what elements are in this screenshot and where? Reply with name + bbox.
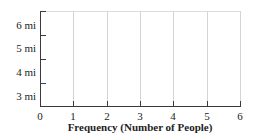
y-tick	[40, 59, 46, 60]
x-tick	[207, 101, 208, 107]
y-label-3mi: 3 mi	[16, 90, 36, 102]
gridline-x-1	[73, 11, 74, 107]
x-tick	[173, 101, 174, 107]
y-tick	[40, 83, 46, 84]
gridline-x-5	[207, 11, 208, 107]
y-label-4mi: 4 mi	[16, 66, 36, 78]
x-tick	[107, 101, 108, 107]
x-tick	[73, 101, 74, 107]
y-tick-top	[40, 11, 46, 12]
gridline-x-6	[240, 11, 241, 107]
gridline-x-3	[140, 11, 141, 107]
y-label-6mi: 6 mi	[16, 19, 36, 31]
frequency-chart: 6 mi 5 mi 4 mi 3 mi 0 1 2 3 4 5 6 Freque…	[0, 0, 255, 139]
x-tick	[140, 101, 141, 107]
gridline-x-4	[173, 11, 174, 107]
y-tick	[40, 35, 46, 36]
gridline-x-2	[107, 11, 108, 107]
plot-area	[40, 11, 240, 107]
x-tick	[240, 101, 241, 107]
y-label-5mi: 5 mi	[16, 42, 36, 54]
x-axis-title: Frequency (Number of People)	[40, 121, 240, 134]
